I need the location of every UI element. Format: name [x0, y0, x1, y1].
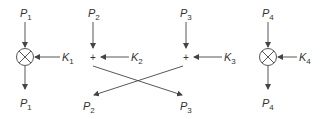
- add-symbol: +: [183, 52, 189, 63]
- output-label-p1: P1: [20, 97, 32, 112]
- input-label-p1: P1: [20, 7, 32, 22]
- key-label-k4: K4: [299, 51, 311, 66]
- key-label-k1: K1: [62, 51, 74, 66]
- swap-crossing: [93, 66, 183, 95]
- block-1: P1 K1 P1: [17, 7, 75, 112]
- multiply-circle-icon: [17, 49, 34, 66]
- multiply-circle-icon: [260, 49, 277, 66]
- block-4: P4 K4 P4: [260, 7, 312, 112]
- input-label-p3: P3: [180, 7, 192, 22]
- output-label-p2: P2: [83, 100, 95, 115]
- cipher-round-diagram: P1 K1 P1 P2 + K2 P2 P3 + K3 P3 P4: [0, 0, 325, 119]
- input-label-p4: P4: [262, 7, 274, 22]
- key-label-k2: K2: [131, 51, 143, 66]
- key-label-k3: K3: [224, 51, 236, 66]
- add-symbol: +: [90, 52, 96, 63]
- input-label-p2: P2: [88, 7, 100, 22]
- output-label-p3: P3: [180, 100, 192, 115]
- block-2: P2 + K2 P2: [83, 7, 143, 115]
- output-label-p4: P4: [262, 97, 274, 112]
- block-3: P3 + K3 P3: [180, 7, 236, 115]
